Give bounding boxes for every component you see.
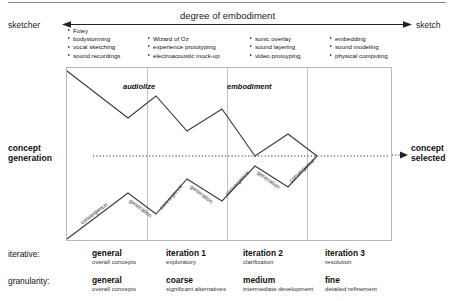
granularity-cell-3-sub: intermediate development: [243, 285, 313, 292]
iterative-cell-2-main: iteration 1: [166, 248, 206, 258]
technique-label: bodystorming: [73, 35, 110, 42]
concept-selected-line2: selected: [411, 153, 445, 163]
bullet-triangle-icon: [250, 45, 252, 47]
bullet-triangle-icon: [250, 54, 252, 56]
technique-item: embedding: [330, 35, 388, 43]
concept-selected-title: concept selected: [411, 143, 445, 164]
iterative-cell-4-main: iteration 3: [325, 248, 365, 258]
technique-label: Foley: [73, 27, 88, 34]
granularity-cell-3-main: medium: [243, 275, 275, 285]
phase-label-embodiment: embodiment: [227, 82, 272, 91]
technique-item: sound recordings: [68, 52, 120, 60]
diagram-root: sketcher sketch degree of embodiment Fol…: [0, 0, 454, 301]
bullet-triangle-icon: [68, 54, 70, 56]
row-label-granularity: granularity:: [8, 276, 49, 286]
concept-generation-title: concept generation: [8, 143, 52, 164]
lower-envelope-line: [67, 156, 317, 239]
technique-item: sound layering: [250, 43, 300, 51]
technique-label: vocal sketching: [73, 43, 115, 50]
bullet-triangle-icon: [148, 45, 150, 47]
granularity-cell-4-sub: detailed refinement: [325, 285, 377, 292]
technique-item: experience prototyping: [148, 43, 220, 51]
technique-item: Wizard of Oz: [148, 35, 220, 43]
technique-label: sonic overlay: [255, 35, 291, 42]
bullet-triangle-icon: [68, 46, 70, 48]
technique-item: bodystorming: [68, 35, 120, 43]
bullet-triangle-icon: [330, 37, 332, 39]
technique-label: Wizard of Oz: [153, 35, 189, 42]
bullet-triangle-icon: [330, 45, 332, 47]
granularity-cell-4-main: fine: [325, 275, 340, 285]
technique-item: vocal sketching: [68, 43, 120, 51]
technique-column-1: Foley bodystorming vocal sketching sound…: [68, 27, 120, 60]
bullet-triangle-icon: [330, 54, 332, 56]
bullet-triangle-icon: [148, 54, 150, 56]
iterative-cell-2-sub: exploratory: [166, 258, 196, 265]
technique-label: sound modeling: [335, 43, 379, 50]
bullet-triangle-icon: [68, 29, 70, 31]
technique-item: electroacoustic mock-up: [148, 52, 220, 60]
technique-column-2: Wizard of Oz experience prototyping elec…: [148, 35, 220, 60]
upper-envelope-line: [67, 71, 317, 156]
concept-generation-plot: audiolize embodiment convergence generat…: [66, 67, 392, 241]
iterative-cell-3-main: iteration 2: [243, 248, 283, 258]
technique-item: Foley: [68, 27, 120, 35]
phase-label-audiolize: audiolize: [123, 82, 155, 91]
iterative-cell-1-sub: overall concepts: [92, 258, 136, 265]
technique-item: video protoyping: [250, 52, 300, 60]
technique-item: physical computing: [330, 52, 388, 60]
technique-column-4: embedding sound modeling physical comput…: [330, 35, 388, 60]
bullet-triangle-icon: [148, 37, 150, 39]
concept-selected-line1: concept: [411, 143, 445, 153]
technique-column-3: sonic overlay sound layering video proto…: [250, 35, 300, 60]
envelope-lines: [67, 68, 393, 242]
row-label-iterative: iterative:: [8, 249, 40, 259]
bullet-triangle-icon: [68, 37, 70, 39]
technique-item: sound modeling: [330, 43, 388, 51]
granularity-cell-2-main: coarse: [166, 275, 193, 285]
granularity-cell-1-sub: overall concepts: [92, 285, 136, 292]
iterative-cell-4-sub: resolution: [325, 258, 351, 265]
technique-label: electroacoustic mock-up: [153, 52, 220, 59]
iterative-cell-3-sub: clarification: [243, 258, 273, 265]
granularity-cell-2-sub: significant alternatives: [166, 285, 226, 292]
technique-label: experience prototyping: [153, 43, 216, 50]
concept-generation-line2: generation: [8, 153, 52, 163]
technique-label: video protoyping: [255, 52, 300, 59]
granularity-cell-1-main: general: [92, 275, 122, 285]
technique-label: physical computing: [335, 52, 388, 59]
bullet-triangle-icon: [250, 37, 252, 39]
technique-label: embedding: [335, 35, 366, 42]
technique-item: sonic overlay: [250, 35, 300, 43]
concept-generation-line1: concept: [8, 143, 52, 153]
iterative-cell-1-main: general: [92, 248, 122, 258]
technique-label: sound recordings: [73, 52, 120, 59]
technique-label: sound layering: [255, 43, 295, 50]
